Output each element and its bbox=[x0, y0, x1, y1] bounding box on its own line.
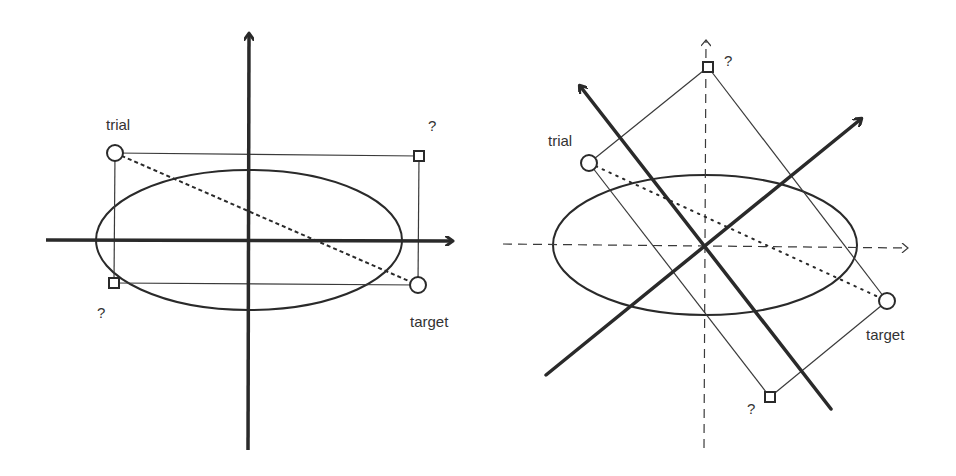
left-trial-point bbox=[107, 145, 123, 161]
left-target-point bbox=[410, 277, 426, 293]
left-y-axis bbox=[248, 34, 249, 450]
right-corner-top-square bbox=[703, 62, 713, 72]
left-panel: trial ? ? target bbox=[46, 34, 452, 450]
right-principal-axis-2 bbox=[580, 86, 831, 409]
right-trial-point bbox=[581, 155, 597, 171]
left-target-label: target bbox=[410, 313, 449, 330]
right-corner-bottom-square bbox=[765, 392, 775, 402]
diagram-canvas: trial ? ? target tri bbox=[0, 0, 956, 476]
left-corner-top-right-label: ? bbox=[428, 117, 436, 134]
right-panel: trial ? target ? bbox=[503, 40, 908, 448]
diagram-stage: trial ? ? target tri bbox=[0, 0, 956, 476]
right-rect-edge-4 bbox=[589, 163, 770, 397]
left-corner-bottom-left-square bbox=[109, 278, 119, 288]
left-trial-target-line bbox=[115, 153, 418, 285]
right-corner-bottom-label: ? bbox=[747, 400, 755, 417]
left-trial-label: trial bbox=[106, 116, 130, 133]
left-rect-right bbox=[418, 156, 419, 285]
left-rect-bottom bbox=[114, 283, 418, 285]
left-corner-bottom-left-label: ? bbox=[97, 304, 105, 321]
left-corner-top-right-square bbox=[414, 151, 424, 161]
left-rect-left bbox=[114, 153, 115, 283]
right-corner-top-label: ? bbox=[724, 52, 732, 69]
left-rect-top bbox=[115, 153, 419, 156]
right-trial-label: trial bbox=[548, 132, 572, 149]
right-target-point bbox=[879, 293, 895, 309]
right-rect-edge-3 bbox=[770, 301, 887, 397]
right-target-label: target bbox=[866, 326, 905, 343]
right-rect-edge-1 bbox=[589, 67, 708, 163]
right-rect-edge-2 bbox=[708, 67, 887, 301]
